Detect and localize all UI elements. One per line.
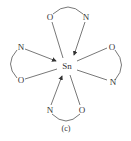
bond-left-o	[25, 69, 57, 79]
right-chelate-arc	[115, 50, 122, 80]
bottom-o-label: O	[79, 105, 86, 115]
bond-right-n	[77, 70, 107, 80]
bond-left-n	[25, 49, 56, 61]
center-atom-label: Sn	[62, 61, 72, 71]
left-chelate-arc	[11, 50, 18, 78]
bond-bottom-n	[51, 76, 62, 105]
top-n-label: N	[83, 12, 90, 22]
tin-complex-diagram: Sn O N N O O N N O (c)	[0, 0, 131, 141]
top-chelate-arc	[53, 7, 83, 14]
bond-bottom-o	[70, 75, 80, 105]
top-o-label: O	[47, 12, 54, 22]
bond-top-n	[74, 22, 85, 55]
left-n-label: N	[18, 42, 25, 52]
bottom-n-label: N	[47, 105, 54, 115]
bond-top-o	[52, 22, 63, 58]
bond-right-o	[77, 48, 107, 61]
right-n-label: N	[110, 77, 117, 87]
left-o-label: O	[18, 75, 25, 85]
right-o-label: O	[109, 42, 116, 52]
caption: (c)	[62, 124, 71, 133]
bottom-chelate-arc	[52, 114, 80, 121]
